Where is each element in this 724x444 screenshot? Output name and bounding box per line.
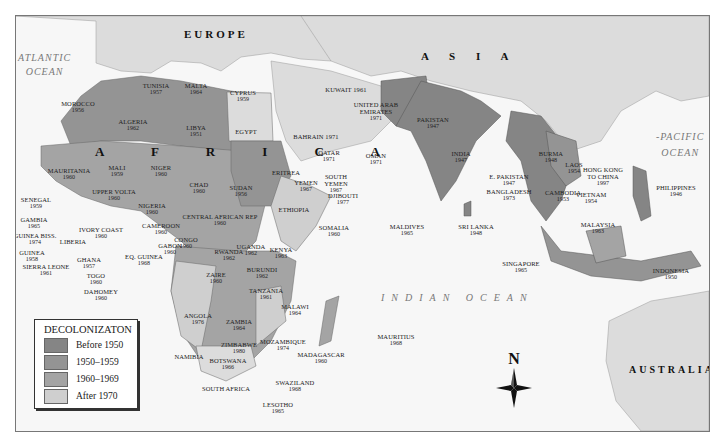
country-label: E. PAKISTAN1947 <box>489 173 528 187</box>
ocean-label-atlantic: ATLANTIC OCEAN <box>18 52 71 77</box>
legend-item: Before 1950 <box>44 338 137 352</box>
country-label: MALAYSIA1963 <box>581 221 616 235</box>
country-label: LIBYA1951 <box>186 124 206 138</box>
country-label: BAHRAIN 1971 <box>293 133 338 140</box>
pacific-line1: -PACIFIC <box>656 131 704 142</box>
country-label: QATAR1971 <box>318 149 340 163</box>
country-label: ZAIRE1960 <box>206 271 226 285</box>
country-label: IVORY COAST1960 <box>79 226 123 240</box>
ocean-label-pacific: -PACIFIC OCEAN <box>656 131 704 158</box>
ocean-label-indian: INDIAN OCEAN <box>381 292 534 303</box>
legend-item: After 1970 <box>44 389 137 403</box>
australia <box>606 291 709 431</box>
region-label-europe: EUROPE <box>184 28 248 40</box>
country-label: SOUTH AFRICA <box>202 385 250 392</box>
country-label: ERITREA <box>272 169 300 176</box>
legend-swatch <box>44 372 68 387</box>
legend-label: 1960–1969 <box>76 374 119 384</box>
legend: DECOLONIZATON Before 1950 1950–1959 1960… <box>34 319 138 409</box>
pacific-line2: OCEAN <box>656 147 704 158</box>
legend-label: Before 1950 <box>76 340 123 350</box>
country-label: LAOS1954 <box>565 161 582 175</box>
legend-swatch <box>44 355 68 370</box>
country-label: NIGER1960 <box>151 164 171 178</box>
country-label: CONGO1960 <box>174 236 198 250</box>
country-label: YEMEN1967 <box>294 179 318 193</box>
country-label: ALGERIA1962 <box>118 118 147 132</box>
country-label: TANZANIA1961 <box>249 287 283 301</box>
region-label-africa: A F R I C A <box>95 144 402 160</box>
atlantic-line2: OCEAN <box>18 66 71 77</box>
sri-lanka <box>464 201 471 216</box>
legend-item: 1960–1969 <box>44 372 137 386</box>
philippines <box>633 166 651 221</box>
country-label: NAMIBIA <box>174 353 203 360</box>
region-label-asia: A S I A <box>421 50 517 62</box>
country-label: BURMA1948 <box>539 150 563 164</box>
country-label: CAMEROON1960 <box>142 222 180 236</box>
country-label: RWANDA1962 <box>215 248 244 262</box>
legend-item: 1950–1959 <box>44 355 137 369</box>
country-label: GUINEA BISS.1974 <box>15 232 56 246</box>
legend-label: 1950–1959 <box>76 357 119 367</box>
country-label: TOGO1960 <box>87 272 105 286</box>
country-label: SOUTH YEMEN1967 <box>321 173 351 194</box>
country-label: SINGAPORE1965 <box>502 260 539 274</box>
country-label: SOMALIA1960 <box>319 224 349 238</box>
country-label: SENEGAL1959 <box>21 196 51 210</box>
country-label: ZIMBABWE1980 <box>221 341 257 355</box>
country-label: VIETNAM1954 <box>576 191 607 205</box>
country-label: PAKISTAN1947 <box>417 116 449 130</box>
country-label: SIERRA LEONE1961 <box>23 263 70 277</box>
country-label: UNITED ARAB EMIRATES1971 <box>354 101 399 122</box>
country-label: GAMBIA1965 <box>21 216 48 230</box>
country-label: MALDIVES1965 <box>390 223 424 237</box>
country-label: EGYPT <box>235 128 256 135</box>
madagascar <box>319 296 339 346</box>
country-label: MAURITIUS1968 <box>377 333 414 347</box>
country-label: KENYA1963 <box>270 246 293 260</box>
country-label: MAURITANIA1960 <box>48 167 90 181</box>
compass-rose: N <box>496 350 532 412</box>
country-label: ANGOLA1976 <box>184 312 212 326</box>
country-label: LESOTHO1965 <box>263 401 293 415</box>
legend-swatch <box>44 389 68 404</box>
country-label: CYPRUS1959 <box>230 89 256 103</box>
country-label: CENTRAL AFRICAN REP1960 <box>183 213 258 227</box>
country-label: ETHIOPIA <box>279 206 310 213</box>
legend-label: After 1970 <box>76 391 117 401</box>
country-label: DAHOMEY1960 <box>84 288 118 302</box>
country-label: GUINEA1958 <box>19 249 45 263</box>
country-label: BURUNDI1962 <box>247 266 277 280</box>
country-label: MALI1959 <box>108 164 125 178</box>
country-label: NIGERIA1960 <box>138 202 165 216</box>
country-label: KUWAIT 1961 <box>325 86 366 93</box>
legend-swatch <box>44 338 68 353</box>
country-label: GHANA1957 <box>77 256 101 270</box>
region-label-australia: AUSTRALIA <box>629 364 710 375</box>
country-label: BANGLADESH1973 <box>486 188 531 202</box>
country-label: MOROCCO1956 <box>61 100 95 114</box>
legend-title: DECOLONIZATON <box>44 324 137 335</box>
country-label: SUDAN1956 <box>230 184 253 198</box>
country-label: TUNISIA1957 <box>143 82 170 96</box>
country-label: CHAD1960 <box>190 181 209 195</box>
country-label: ZAMBIA1964 <box>226 318 252 332</box>
country-label: MALAWI1964 <box>281 303 309 317</box>
atlantic-line1: ATLANTIC <box>18 52 71 63</box>
compass-north-label: N <box>496 350 532 368</box>
country-label: HONG KONG TO CHINA1997 <box>582 166 624 187</box>
country-label: UPPER VOLTA1960 <box>92 188 136 202</box>
country-label: INDONESIA1950 <box>653 267 689 281</box>
country-label: SWAZILAND1968 <box>276 379 315 393</box>
compass-star-icon <box>496 368 532 408</box>
country-label: SRI LANKA1948 <box>458 223 493 237</box>
country-label: MALTA1964 <box>185 82 208 96</box>
country-label: INDIA1947 <box>452 150 471 164</box>
country-label: MADAGASCAR1960 <box>297 351 344 365</box>
country-label: OMAN1971 <box>366 152 386 166</box>
country-label: DJIBOUTI1977 <box>328 192 358 206</box>
country-label: BOTSWANA1966 <box>210 357 247 371</box>
india <box>396 81 501 201</box>
country-label: PHILIPPINES1946 <box>656 184 695 198</box>
